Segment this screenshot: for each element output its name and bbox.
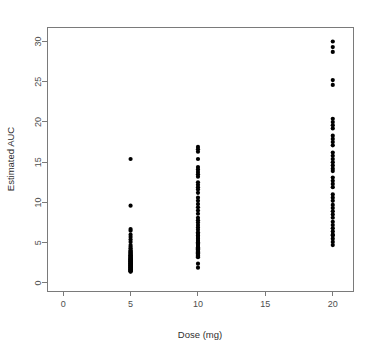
x-axis-ticks: 05101520: [61, 291, 338, 309]
x-axis-title: Dose (mg): [178, 329, 222, 340]
y-tick-label: 0: [33, 280, 43, 285]
y-tick-label: 10: [33, 197, 43, 207]
data-point: [128, 157, 132, 161]
plot-frame: [48, 28, 354, 292]
data-point: [196, 150, 200, 154]
data-point: [331, 199, 335, 203]
y-axis-title: Estimated AUC: [5, 127, 16, 192]
data-point: [331, 50, 335, 54]
series-5mg: [128, 157, 132, 274]
data-point: [331, 185, 335, 189]
x-tick-label: 5: [128, 299, 133, 309]
data-point: [196, 266, 200, 270]
data-point: [331, 169, 335, 173]
y-tick-label: 5: [33, 240, 43, 245]
x-tick-label: 15: [260, 299, 270, 309]
y-axis-ticks: 051015202530: [33, 36, 47, 285]
data-point: [196, 262, 200, 266]
x-tick-label: 10: [193, 299, 203, 309]
data-point: [331, 216, 335, 220]
data-point: [196, 175, 200, 179]
data-point: [331, 39, 335, 43]
data-point: [128, 270, 132, 274]
data-point: [331, 78, 335, 82]
data-point: [331, 45, 335, 49]
plot-canvas: 051015202530 05101520 Dose (mg) Estimate…: [0, 0, 380, 357]
data-point: [331, 243, 335, 247]
scatter-plot-figure: 051015202530 05101520 Dose (mg) Estimate…: [0, 0, 380, 357]
data-point: [128, 204, 132, 208]
y-tick-label: 15: [33, 157, 43, 167]
data-point: [196, 255, 200, 259]
x-tick-label: 20: [328, 299, 338, 309]
x-tick-label: 0: [61, 299, 66, 309]
y-tick-label: 25: [33, 77, 43, 87]
y-tick-label: 30: [33, 36, 43, 46]
data-point: [331, 126, 335, 130]
series-10mg: [196, 145, 200, 270]
data-point: [331, 143, 335, 147]
data-point: [196, 191, 200, 195]
plot-box-border: [48, 28, 354, 292]
data-point: [196, 212, 200, 216]
series-20mg: [331, 39, 335, 247]
data-point: [331, 83, 335, 87]
data-point: [128, 229, 132, 233]
y-tick-label: 20: [33, 117, 43, 127]
data-points-layer: [128, 39, 334, 273]
data-point: [196, 157, 200, 161]
